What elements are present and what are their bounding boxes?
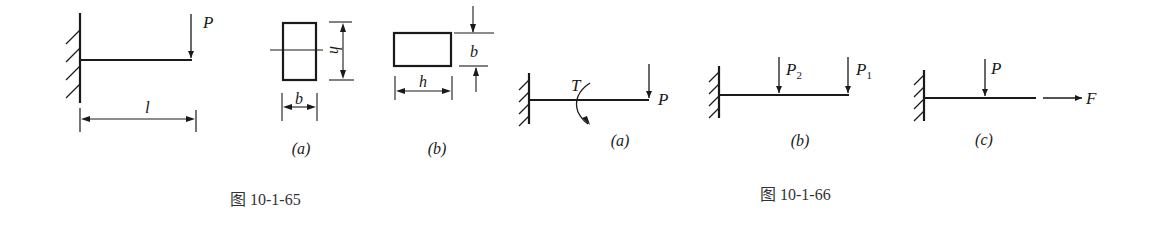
fig65-section-a: h b (a) [270, 22, 354, 158]
load-label: P [202, 13, 213, 32]
subfigure-label: (b) [791, 132, 810, 150]
subfigure-label: (c) [975, 131, 993, 149]
fig65-section-b: b h (b) [394, 6, 494, 158]
fig66-case-b: P2 P1 (b) [709, 57, 872, 150]
figure-caption-65: 图 10-1-65 [230, 191, 301, 208]
height-label: h [327, 46, 344, 54]
wall-hatch-icon [914, 75, 924, 121]
fig65-cantilever: P l [66, 13, 213, 132]
section-rect [283, 23, 316, 80]
load-1-label: P1 [855, 60, 872, 81]
wall-hatch-icon [66, 30, 80, 98]
fig66-case-a: T P (a) [519, 64, 668, 150]
axial-label: F [1085, 89, 1097, 108]
torque-label: T [571, 76, 582, 95]
wall-hatch-icon [709, 72, 719, 118]
length-label: l [145, 98, 150, 117]
section-rect [394, 33, 451, 66]
width-label: b [295, 90, 303, 107]
load-label: P [657, 90, 668, 109]
wall-hatch-icon [519, 80, 529, 126]
figure-caption-66: 图 10-1-66 [760, 186, 831, 203]
subfigure-label: (a) [292, 140, 311, 158]
width-label: h [419, 73, 427, 90]
subfigure-label: (a) [611, 132, 630, 150]
height-label: b [470, 43, 478, 60]
load-label: P [990, 59, 1001, 78]
subfigure-label: (b) [428, 140, 447, 158]
load-2-label: P2 [785, 60, 802, 81]
fig66-case-c: P F (c) [914, 59, 1097, 149]
